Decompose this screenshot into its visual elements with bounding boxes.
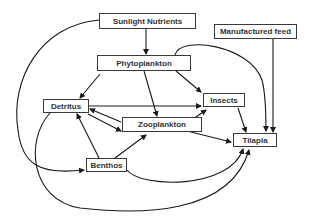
edge-insects-tilapia — [238, 108, 246, 132]
edge-phyto-zoo — [144, 71, 157, 116]
node-zooplankton: Zooplankton — [122, 117, 202, 132]
node-manufactured-feed: Manufactured feed — [214, 24, 297, 39]
edge-benthos-tilapia — [127, 149, 243, 182]
edge-benthos-zoo — [115, 135, 146, 158]
node-insects: Insects — [203, 93, 245, 107]
node-benthos: Benthos — [86, 158, 127, 172]
edge-sunlight-benthos — [17, 20, 99, 171]
edge-zoo-detritus — [90, 109, 121, 122]
edge-phyto-insects — [176, 71, 201, 92]
node-detritus: Detritus — [43, 99, 89, 113]
food-web-diagram: Sunlight Nutrients Phytoplankton Manufac… — [0, 0, 313, 222]
node-phytoplankton: Phytoplankton — [97, 55, 191, 71]
node-sunlight-nutrients: Sunlight Nutrients — [99, 13, 196, 29]
node-tilapia: Tilapia — [233, 133, 277, 147]
edge-benthos-detritus — [77, 114, 99, 158]
edge-detritus-zoo — [88, 114, 121, 131]
edge-phyto-detritus — [80, 74, 100, 98]
